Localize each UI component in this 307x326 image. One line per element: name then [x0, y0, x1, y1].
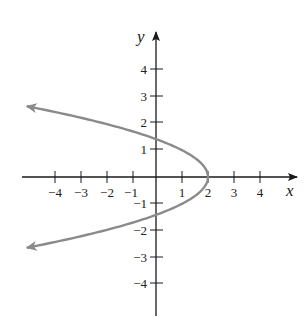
y-tick-label: −1 [133, 196, 147, 211]
y-tick-label: 4 [141, 62, 148, 77]
x-tick-label: −3 [74, 185, 88, 200]
x-axis-label: x [285, 181, 294, 200]
y-tick-label: 1 [141, 142, 148, 157]
x-tick-label: −4 [48, 185, 62, 200]
y-tick-label: 2 [141, 115, 148, 130]
x-tick-label: 3 [231, 185, 238, 200]
x-tick-label: 2 [205, 185, 212, 200]
x-tick-label: 1 [179, 185, 186, 200]
y-tick-label: −3 [133, 250, 147, 265]
y-tick-label: −4 [133, 276, 147, 291]
y-tick-label: 3 [141, 89, 148, 104]
parabola-graph: x y −4 −3 −2 −1 1 2 3 4 4 3 2 1 −1 [0, 0, 307, 326]
x-tick-label: 4 [257, 185, 264, 200]
y-tick-label: −2 [133, 223, 147, 238]
y-axis-label: y [135, 27, 145, 46]
x-tick-label: −2 [100, 185, 114, 200]
